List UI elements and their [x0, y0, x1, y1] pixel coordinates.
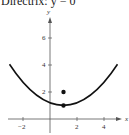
y-tick-2: 2	[42, 88, 46, 96]
x-tick-4: 4	[102, 123, 106, 131]
vertex-point	[61, 103, 65, 107]
focus-point	[61, 90, 65, 94]
parabola-curve	[10, 64, 118, 105]
y-axis-arrow-icon	[48, 17, 52, 23]
x-tick-2: 2	[75, 123, 79, 131]
y-tick-6: 6	[42, 34, 46, 42]
x-tick-neg2: −2	[18, 123, 26, 131]
y-axis-label: y	[46, 8, 51, 16]
x-axis-arrow-icon	[116, 117, 122, 121]
y-tick-4: 4	[42, 61, 46, 69]
x-axis-label: x	[124, 115, 129, 123]
parabola-chart: x y −2 2 4 2 4 6	[0, 0, 129, 135]
